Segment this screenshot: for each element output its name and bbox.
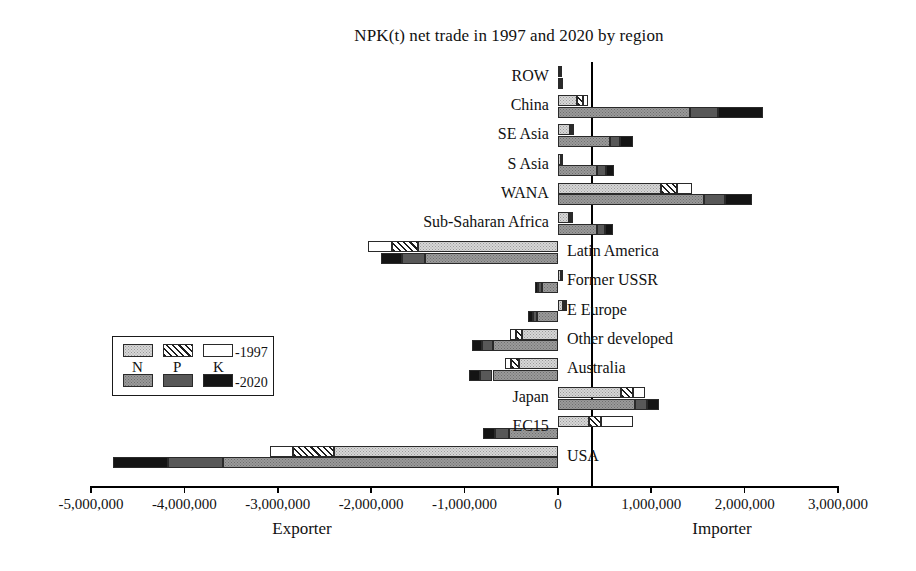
segment-k-2020	[381, 253, 402, 264]
segment-p-2020	[610, 136, 620, 147]
row-label-usa: USA	[567, 448, 599, 464]
segment-k-2020	[620, 136, 632, 147]
segment-p-2020	[597, 224, 604, 235]
segment-p-2020	[402, 253, 425, 264]
segment-n-1997	[558, 416, 589, 427]
x-tick-label-4: -1,000,000	[432, 496, 497, 513]
row-label-china: China	[511, 97, 549, 113]
x-tick-4	[464, 486, 466, 493]
bar-1997	[91, 95, 838, 106]
x-tick-0	[90, 486, 92, 493]
chart-title: NPK(t) net trade in 1997 and 2020 by reg…	[0, 26, 916, 46]
legend-letter-n: N	[132, 360, 143, 375]
segment-n-2020	[537, 311, 558, 322]
segment-p-2020	[482, 340, 493, 351]
segment-k-1997	[571, 212, 573, 223]
bar-row	[91, 446, 838, 469]
segment-n-2020	[223, 457, 558, 468]
bar-2020	[91, 107, 838, 118]
bar-2020	[91, 282, 838, 293]
segment-p-1997	[392, 241, 418, 252]
segment-k-2020	[469, 370, 480, 381]
segment-n-2020	[493, 370, 558, 381]
row-label-australia: Australia	[567, 360, 626, 376]
bar-1997	[91, 416, 838, 427]
bar-row	[91, 124, 838, 147]
bar-row	[91, 416, 838, 439]
segment-n-1997	[558, 183, 661, 194]
x-tick-5	[557, 486, 559, 495]
legend-swatch-k-2020	[203, 374, 233, 387]
segment-p-2020	[538, 282, 542, 293]
row-label-se-asia: SE Asia	[498, 126, 549, 142]
bar-2020	[91, 194, 838, 205]
row-label-s-asia: S Asia	[508, 156, 549, 172]
segment-n-1997	[522, 329, 557, 340]
x-tick-label-7: 2,000,000	[715, 496, 775, 513]
bar-1997	[91, 66, 838, 77]
chart-container: NPK(t) net trade in 1997 and 2020 by reg…	[0, 0, 916, 571]
row-label-japan: Japan	[512, 389, 548, 405]
segment-p-2020	[597, 165, 606, 176]
legend-letter-k: K	[213, 360, 224, 375]
segment-k-2020	[606, 165, 614, 176]
segment-k-2020	[561, 78, 563, 89]
segment-n-1997	[558, 95, 578, 106]
segment-p-1997	[293, 446, 334, 457]
segment-p-1997	[661, 183, 678, 194]
bar-2020	[91, 428, 838, 439]
segment-k-2020	[483, 428, 495, 439]
bar-1997	[91, 241, 838, 252]
legend-label-2020: -2020	[235, 376, 268, 390]
legend-label-1997: -1997	[235, 346, 268, 360]
legend-letter-p: P	[173, 360, 181, 375]
segment-p-2020	[690, 107, 717, 118]
bar-row	[91, 241, 838, 264]
segment-n-2020	[493, 340, 557, 351]
segment-p-2020	[704, 194, 725, 205]
x-tick-2	[277, 486, 279, 493]
segment-p-1997	[621, 387, 632, 398]
exporter-caption: Exporter	[272, 519, 331, 539]
segment-n-2020	[542, 282, 558, 293]
row-label-row: ROW	[512, 68, 549, 84]
segment-p-2020	[635, 399, 646, 410]
segment-n-2020	[425, 253, 558, 264]
legend-swatch-p-1997	[163, 344, 193, 357]
bar-2020	[91, 399, 838, 410]
segment-k-1997	[601, 416, 633, 427]
bar-1997	[91, 270, 838, 281]
row-label-former-ussr: Former USSR	[567, 272, 658, 288]
segment-n-2020	[558, 399, 636, 410]
bar-2020	[91, 311, 838, 322]
segment-k-1997	[560, 66, 562, 77]
segment-n-1997	[418, 241, 558, 252]
chart-legend: -1997 N P K -2020	[112, 336, 274, 396]
segment-k-1997	[561, 154, 563, 165]
segment-k-1997	[510, 329, 516, 340]
x-tick-7	[744, 486, 746, 493]
segment-p-1997	[516, 329, 523, 340]
bar-row	[91, 66, 838, 89]
segment-k-1997	[561, 270, 563, 281]
bar-1997	[91, 124, 838, 135]
bar-row	[91, 270, 838, 293]
x-tick-1	[184, 486, 186, 493]
segment-k-2020	[528, 311, 532, 322]
x-tick-label-2: -3,000,000	[245, 496, 310, 513]
bar-2020	[91, 136, 838, 147]
segment-k-2020	[605, 224, 613, 235]
row-label-ec15: EC15	[512, 418, 548, 434]
segment-n-2020	[558, 136, 610, 147]
segment-n-1997	[334, 446, 558, 457]
segment-p-1997	[589, 416, 601, 427]
bar-1997	[91, 154, 838, 165]
segment-n-2020	[558, 194, 704, 205]
segment-k-1997	[583, 95, 588, 106]
segment-p-2020	[168, 457, 223, 468]
bar-row	[91, 95, 838, 118]
legend-swatch-n-1997	[123, 344, 153, 357]
segment-k-2020	[725, 194, 752, 205]
legend-swatch-n-2020	[123, 374, 153, 387]
row-label-sub-saharan-africa: Sub-Saharan Africa	[423, 214, 549, 230]
